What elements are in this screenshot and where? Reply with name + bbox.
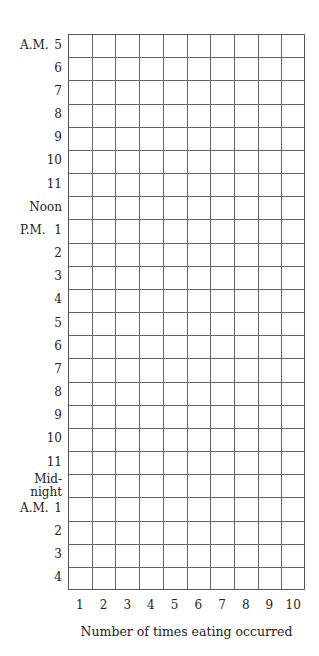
x-tick-label: 4 [139, 598, 163, 612]
grid-column-line [163, 35, 164, 589]
y-tick-label: 5 [54, 317, 62, 330]
y-tick-label: 6 [54, 340, 62, 353]
x-tick-label: 9 [257, 598, 281, 612]
y-tick-label: 4 [54, 293, 62, 306]
y-tick-label: 7 [54, 363, 62, 376]
y-tick-period-label: A.M. [20, 502, 49, 515]
y-tick-label: 5 [54, 39, 62, 52]
x-tick-label: 7 [210, 598, 234, 612]
y-tick-label: 9 [54, 409, 62, 422]
x-tick-label: 1 [68, 598, 92, 612]
y-tick-label: 3 [54, 270, 62, 283]
y-tick-label: 6 [54, 62, 62, 75]
y-tick-label: 4 [54, 571, 62, 584]
x-tick-label: 6 [186, 598, 210, 612]
y-tick-label: 1 [54, 502, 62, 515]
y-tick-label: 11 [47, 178, 62, 191]
grid-column-line [281, 35, 282, 589]
grid-column-line [115, 35, 116, 589]
x-tick-label: 3 [115, 598, 139, 612]
x-tick-label: 8 [234, 598, 258, 612]
empty-grid [68, 34, 305, 590]
y-tick-label: 8 [54, 108, 62, 121]
y-tick-label: 8 [54, 386, 62, 399]
grid-column-line [234, 35, 235, 589]
x-tick-label: 5 [163, 598, 187, 612]
grid-column-line [139, 35, 140, 589]
grid-column-line [258, 35, 259, 589]
grid-column-line [92, 35, 93, 589]
y-tick-label: 10 [47, 154, 62, 167]
x-tick-label: 10 [281, 598, 305, 612]
y-tick-label: Noon [29, 201, 62, 214]
y-tick-label: 10 [47, 432, 62, 445]
y-tick-label: 9 [54, 131, 62, 144]
y-tick-label: Mid-night [30, 473, 62, 499]
y-tick-label: 11 [47, 456, 62, 469]
grid-column-line [187, 35, 188, 589]
y-tick-label: 1 [54, 224, 62, 237]
y-tick-label: 2 [54, 525, 62, 538]
x-axis-title: Number of times eating occurred [68, 624, 305, 639]
grid-column-line [210, 35, 211, 589]
y-tick-period-label: A.M. [20, 39, 49, 52]
x-tick-label: 2 [92, 598, 116, 612]
y-tick-label: 2 [54, 247, 62, 260]
y-tick-label: 3 [54, 548, 62, 561]
y-tick-label: 7 [54, 85, 62, 98]
y-tick-period-label: P.M. [20, 224, 46, 237]
